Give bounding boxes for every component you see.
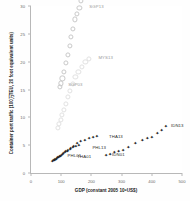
point-label-sgp03: SGP03 xyxy=(68,81,82,86)
x-axis-tick-label: 200 xyxy=(88,179,95,184)
data-point-sgp xyxy=(63,60,68,65)
plot-inner: ✦✦✦✦✦✦✦✦✦✦✦✦✦✦✦✦✦✦✦✦✦✦✦✦✦✦✦✦✦✦✦✦✦✦✦✦✦✦✦✦… xyxy=(31,6,182,173)
data-point-mys xyxy=(76,69,81,74)
x-axis-tick xyxy=(182,173,183,176)
x-axis-tick xyxy=(61,173,62,176)
data-point-sgp xyxy=(67,43,72,48)
point-label-sgp13: SGP13 xyxy=(89,4,103,9)
data-point-idn: ✦ xyxy=(150,135,154,139)
y-axis-tick-label: 5 xyxy=(23,143,25,148)
y-axis-tick-label: 0 xyxy=(23,171,25,176)
data-point-sgp xyxy=(59,81,64,86)
point-label-idn01: IDN01 xyxy=(112,152,125,157)
x-axis-title: GDP (constant 2005 10⁹US$) xyxy=(30,188,182,193)
data-point-mys xyxy=(68,88,73,93)
data-point-mys xyxy=(60,112,65,117)
data-point-mys xyxy=(79,64,84,69)
data-point-mys xyxy=(63,101,68,106)
x-axis-tick-label: 500 xyxy=(179,179,186,184)
y-axis-title: Container port traffic (100万TEU, 20 foot… xyxy=(8,18,14,168)
y-axis-tick xyxy=(28,117,31,118)
data-point-mys xyxy=(61,107,66,112)
data-point-mys xyxy=(58,117,63,122)
data-point-idn: ✦ xyxy=(145,136,149,140)
data-point-mys xyxy=(56,121,61,126)
data-point-mys xyxy=(73,75,78,80)
x-axis-tick-label: 0 xyxy=(30,179,32,184)
y-axis-tick-label: 20 xyxy=(20,59,25,64)
point-label-phl01: PHL01 xyxy=(68,152,82,157)
x-axis-tick-label: 100 xyxy=(58,179,65,184)
x-axis-tick-label: 300 xyxy=(118,179,125,184)
data-point-sgp xyxy=(74,11,79,16)
data-point-mys xyxy=(65,95,70,100)
y-axis-tick-label: 25 xyxy=(20,31,25,36)
y-axis-tick-label: 15 xyxy=(20,87,25,92)
plot-area: ✦✦✦✦✦✦✦✦✦✦✦✦✦✦✦✦✦✦✦✦✦✦✦✦✦✦✦✦✦✦✦✦✦✦✦✦✦✦✦✦… xyxy=(30,6,182,174)
x-axis-tick xyxy=(121,173,122,176)
y-axis-tick xyxy=(28,173,31,174)
data-point-idn: ✦ xyxy=(126,145,130,149)
chart-figure: ✦✦✦✦✦✦✦✦✦✦✦✦✦✦✦✦✦✦✦✦✦✦✦✦✦✦✦✦✦✦✦✦✦✦✦✦✦✦✦✦… xyxy=(0,0,190,201)
y-axis-tick-label: 30 xyxy=(20,4,25,9)
point-label-mys13: MYS13 xyxy=(98,55,113,60)
y-axis-tick xyxy=(28,33,31,34)
data-point-mys xyxy=(86,56,91,61)
y-axis-tick-label: 10 xyxy=(20,115,25,120)
y-axis-tick xyxy=(28,89,31,90)
data-point-sgp xyxy=(65,52,70,57)
data-point-sgp xyxy=(77,6,82,11)
data-point-phl: ✦ xyxy=(77,143,81,147)
point-label-tha13: THA13 xyxy=(109,134,123,139)
data-point-sgp xyxy=(79,0,84,4)
point-label-phl13: PHL13 xyxy=(92,145,106,150)
data-point-sgp xyxy=(71,26,76,31)
data-point-idn: ✦ xyxy=(133,141,137,145)
data-point-sgp xyxy=(61,70,66,75)
data-point-sgp xyxy=(69,35,74,40)
data-point-tha: ✦ xyxy=(95,134,99,138)
data-point-idn: ✦ xyxy=(164,124,168,128)
x-axis-tick xyxy=(91,173,92,176)
y-axis-tick xyxy=(28,145,31,146)
y-axis-tick xyxy=(28,6,31,7)
data-point-sgp xyxy=(72,17,77,22)
data-point-sgp xyxy=(60,76,65,81)
x-axis-tick-label: 400 xyxy=(148,179,155,184)
data-point-idn: ✦ xyxy=(140,138,144,142)
y-axis-tick xyxy=(28,61,31,62)
point-label-idn13: IDN13 xyxy=(171,123,184,128)
x-axis-tick xyxy=(151,173,152,176)
